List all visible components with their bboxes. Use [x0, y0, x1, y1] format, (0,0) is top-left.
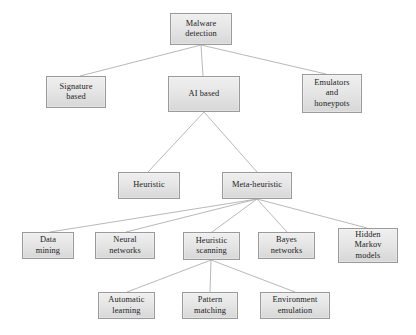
node-ai-based[interactable]: AI based	[168, 76, 240, 112]
edge-meta-heuristic-to-neural-networks	[126, 199, 257, 232]
edge-meta-heuristic-to-bayes-networks	[257, 199, 287, 232]
node-data-mining[interactable]: Data mining	[22, 232, 74, 259]
node-hidden-markov[interactable]: Hidden Markov models	[338, 228, 398, 263]
node-bayes-networks[interactable]: Bayes networks	[258, 232, 315, 259]
edge-ai-based-to-heuristic	[148, 112, 204, 172]
edge-heuristic-scanning-to-pattern-matching	[210, 260, 211, 292]
edge-malware-detection-to-emulators-honeypots	[201, 45, 326, 74]
edge-ai-based-to-meta-heuristic	[204, 112, 257, 172]
edge-meta-heuristic-to-heuristic-scanning	[212, 199, 257, 232]
edge-meta-heuristic-to-data-mining	[50, 199, 257, 232]
edge-heuristic-scanning-to-environment-emulation	[211, 260, 295, 292]
edge-malware-detection-to-signature-based	[80, 45, 201, 76]
edge-heuristic-scanning-to-automatic-learning	[127, 260, 211, 292]
edge-layer	[0, 0, 416, 335]
node-meta-heuristic[interactable]: Meta-heuristic	[222, 172, 292, 199]
diagram-canvas: Malware detectionSignature basedAI based…	[0, 0, 416, 335]
node-emulators-honeypots[interactable]: Emulators and honeypots	[302, 74, 362, 113]
node-pattern-matching[interactable]: Pattern matching	[182, 292, 238, 319]
node-environment-emulation[interactable]: Environment emulation	[260, 292, 330, 319]
node-neural-networks[interactable]: Neural networks	[95, 232, 155, 259]
edge-malware-detection-to-ai-based	[201, 45, 203, 76]
node-heuristic[interactable]: Heuristic	[118, 172, 180, 199]
node-signature-based[interactable]: Signature based	[46, 76, 106, 108]
node-heuristic-scanning[interactable]: Heuristic scanning	[183, 232, 240, 260]
node-automatic-learning[interactable]: Automatic learning	[98, 292, 155, 319]
node-malware-detection[interactable]: Malware detection	[170, 13, 232, 45]
edge-meta-heuristic-to-hidden-markov	[257, 199, 367, 228]
